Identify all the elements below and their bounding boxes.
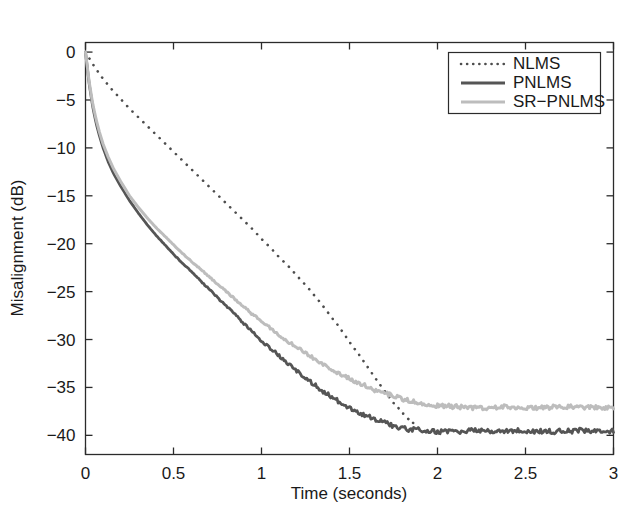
- x-axis-title: Time (seconds): [291, 484, 408, 503]
- x-tick-label: 2.5: [514, 464, 538, 483]
- x-tick-label: 2: [433, 464, 442, 483]
- y-tick-label: −30: [47, 331, 76, 350]
- y-axis-tick-labels: 0−5−10−15−20−25−30−35−40: [47, 43, 76, 445]
- x-axis-tick-labels: 00.511.522.53: [81, 464, 618, 483]
- y-tick-label: −15: [47, 187, 76, 206]
- y-tick-label: 0: [66, 43, 75, 62]
- y-axis-title: Misalignment (dB): [8, 180, 27, 317]
- legend-label-nlms: NLMS: [513, 54, 560, 73]
- series-line-nlms: [86, 52, 429, 435]
- figure-container: 00.511.522.53 0−5−10−15−20−25−30−35−40 T…: [0, 0, 639, 521]
- x-tick-label: 3: [609, 464, 618, 483]
- x-tick-label: 0.5: [162, 464, 186, 483]
- x-tick-label: 1.5: [338, 464, 362, 483]
- y-tick-label: −5: [56, 91, 75, 110]
- chart-legend: NLMSPNLMSSR−PNLMS: [449, 53, 606, 114]
- x-tick-label: 0: [81, 464, 90, 483]
- y-tick-label: −10: [47, 139, 76, 158]
- y-tick-label: −25: [47, 283, 76, 302]
- y-tick-label: −35: [47, 378, 76, 397]
- chart-canvas: 00.511.522.53 0−5−10−15−20−25−30−35−40 T…: [0, 0, 639, 521]
- y-tick-label: −20: [47, 235, 76, 254]
- x-tick-label: 1: [257, 464, 266, 483]
- y-tick-label: −40: [47, 426, 76, 445]
- legend-label-pnlms: PNLMS: [513, 73, 572, 92]
- legend-label-sr-pnlms: SR−PNLMS: [513, 92, 605, 111]
